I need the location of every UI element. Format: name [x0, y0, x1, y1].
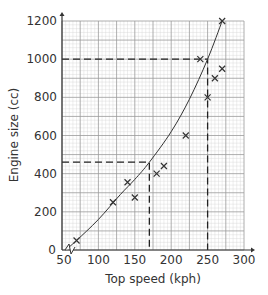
x-axis-arrow-icon	[251, 248, 255, 253]
y-tick-label: 1000	[26, 52, 57, 66]
x-tick-label: 100	[87, 253, 110, 267]
x-axis-tick-labels: 50100150200250300	[56, 253, 255, 267]
x-tick-label: 250	[196, 253, 219, 267]
y-tick-label: 600	[34, 129, 57, 143]
x-tick-label: 200	[160, 253, 183, 267]
y-axis-label: Engine size (cc)	[7, 88, 21, 183]
chart-canvas: 50100150200250300 020040060080010001200 …	[0, 0, 268, 295]
y-tick-label: 200	[34, 205, 57, 219]
y-axis-tick-labels: 020040060080010001200	[26, 14, 57, 257]
x-tick-label: 150	[123, 253, 146, 267]
y-tick-label: 1200	[26, 14, 57, 28]
x-tick-label: 50	[56, 253, 71, 267]
y-axis-arrow-icon	[60, 12, 65, 16]
y-tick-label: 800	[34, 90, 57, 104]
x-tick-label: 300	[233, 253, 256, 267]
y-tick-label: 400	[34, 167, 57, 181]
x-axis-label: Top speed (kph)	[104, 272, 201, 286]
y-tick-label: 0	[48, 243, 56, 257]
